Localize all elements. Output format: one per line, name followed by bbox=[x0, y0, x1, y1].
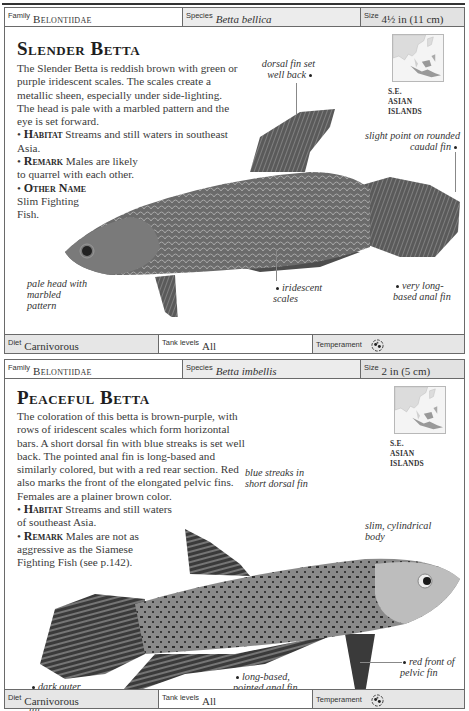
top-rule bbox=[2, 3, 465, 5]
map-label: S.E. ASIAN ISLANDS bbox=[390, 439, 426, 469]
family-value: Belontiidae bbox=[33, 13, 92, 25]
leader-line bbox=[455, 152, 456, 192]
header-row: Family Belontiidae Species Betta imbelli… bbox=[4, 359, 465, 379]
entry-slender-betta: Family Belontiidae Species Betta bellica… bbox=[0, 0, 469, 356]
temperament-label: Temperament bbox=[316, 340, 362, 349]
callout-anal-fin: very long-based anal fin bbox=[393, 280, 455, 302]
map-se-asia-icon bbox=[394, 386, 446, 434]
diet-value: Carnivorous bbox=[24, 695, 78, 707]
family-label: Family bbox=[8, 11, 30, 20]
callout-dorsal-fin: blue streaks in short dorsal fin bbox=[245, 467, 315, 489]
callout-dorsal-fin: dorsal fin set well back bbox=[245, 58, 315, 80]
diet-label: Diet bbox=[8, 338, 21, 347]
map-se-asia-icon bbox=[392, 34, 444, 82]
description-text: The coloration of this betta is brown-pu… bbox=[17, 410, 245, 502]
page-title: Slender Betta bbox=[17, 38, 140, 60]
temperament-cell: Temperament bbox=[313, 690, 464, 708]
tank-levels-cell: Tank levels All bbox=[159, 335, 313, 353]
callout-iridescent-scales: iridescent scales bbox=[273, 282, 335, 304]
family-label: Family bbox=[8, 363, 30, 372]
tank-levels-label: Tank levels bbox=[162, 693, 199, 702]
entry-peaceful-betta: Family Belontiidae Species Betta imbelli… bbox=[0, 357, 469, 711]
diet-cell: Diet Carnivorous bbox=[5, 690, 159, 708]
species-label: Species bbox=[186, 11, 213, 20]
species-value: Betta imbellis bbox=[216, 365, 277, 377]
temperament-cell: Temperament bbox=[313, 335, 464, 353]
family-cell: Family Belontiidae bbox=[5, 8, 183, 26]
leader-line bbox=[360, 662, 402, 663]
header-row: Family Belontiidae Species Betta bellica… bbox=[4, 7, 465, 27]
page-title: Peaceful Betta bbox=[17, 387, 150, 409]
callout-body: slim, cylindrical body bbox=[365, 520, 435, 542]
peaceful-fish-icon bbox=[371, 693, 384, 706]
size-value: 2 in (5 cm) bbox=[382, 365, 431, 377]
tank-levels-cell: Tank levels All bbox=[159, 690, 313, 708]
tank-levels-value: All bbox=[202, 340, 216, 352]
family-value: Belontiidae bbox=[33, 365, 92, 377]
species-label: Species bbox=[186, 363, 213, 372]
tank-levels-value: All bbox=[202, 695, 216, 707]
callout-pelvic-fin: red front of pelvic fin bbox=[400, 656, 462, 678]
tank-levels-label: Tank levels bbox=[162, 338, 199, 347]
footer-row: Diet Carnivorous Tank levels All Tempera… bbox=[4, 334, 465, 354]
family-cell: Family Belontiidae bbox=[5, 360, 183, 378]
callout-pale-head: pale head with marbled pattern bbox=[27, 278, 89, 311]
callout-caudal-fin: slight point on rounded caudal fin bbox=[360, 130, 460, 152]
size-cell: Size 2 in (5 cm) bbox=[361, 360, 464, 378]
size-label: Size bbox=[364, 363, 379, 372]
species-cell: Species Betta bellica bbox=[183, 8, 361, 26]
content-panel: Slender Betta The Slender Betta is reddi… bbox=[4, 27, 465, 334]
species-cell: Species Betta imbellis bbox=[183, 360, 361, 378]
size-cell: Size 4½ in (11 cm) bbox=[361, 8, 464, 26]
leader-line bbox=[296, 83, 297, 115]
leader-line bbox=[276, 249, 277, 281]
temperament-label: Temperament bbox=[316, 695, 362, 704]
diet-value: Carnivorous bbox=[24, 340, 78, 352]
size-value: 4½ in (11 cm) bbox=[382, 13, 444, 25]
content-panel: Peaceful Betta The coloration of this be… bbox=[4, 379, 465, 689]
diet-label: Diet bbox=[8, 693, 21, 702]
footer-row: Diet Carnivorous Tank levels All Tempera… bbox=[4, 689, 465, 709]
size-label: Size bbox=[364, 11, 379, 20]
species-value: Betta bellica bbox=[216, 13, 272, 25]
peaceful-fish-icon bbox=[371, 338, 384, 351]
diet-cell: Diet Carnivorous bbox=[5, 335, 159, 353]
